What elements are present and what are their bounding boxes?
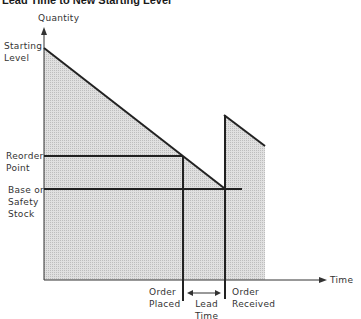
order-placed-label: Order Placed	[149, 286, 180, 310]
shaded-inventory-area	[44, 48, 265, 280]
y-axis-label: Quantity	[38, 12, 79, 24]
base-stock-label: Base or Safety Stock	[8, 184, 44, 220]
y-axis-arrow-icon	[41, 27, 47, 35]
lead-arrow-right-icon	[215, 290, 221, 296]
reorder-point-label: Reorder Point	[6, 150, 44, 174]
lead-arrow-left-icon	[187, 290, 193, 296]
x-axis-arrow-icon	[319, 277, 327, 283]
x-axis-label: Time	[330, 274, 353, 286]
starting-level-label: Starting Level	[4, 40, 42, 64]
lead-time-label: Lead Time	[195, 298, 218, 319]
order-received-label: Order Received	[232, 286, 275, 310]
inventory-diagram	[0, 0, 361, 319]
